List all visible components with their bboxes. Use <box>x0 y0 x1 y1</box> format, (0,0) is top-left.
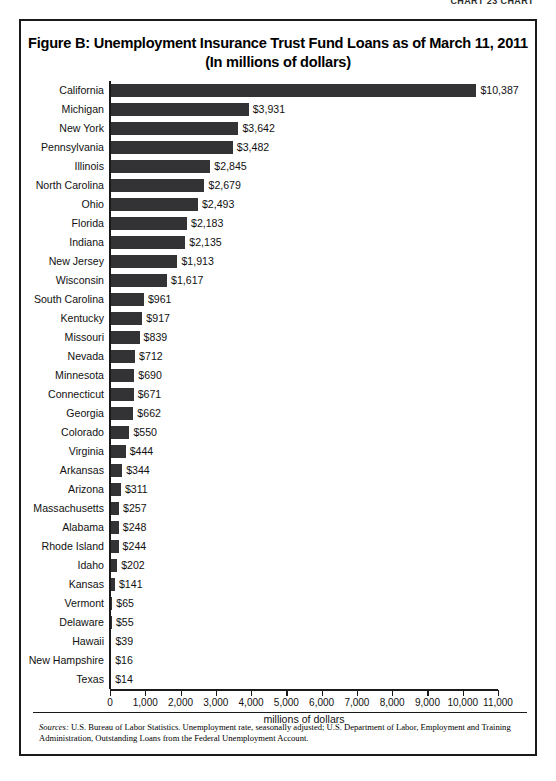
chart-row: Arizona$311 <box>21 480 539 499</box>
x-axis-tick-label: 2,000 <box>168 697 193 708</box>
chart-row: Delaware$55 <box>21 613 539 632</box>
figure-title: Figure B: Unemployment Insurance Trust F… <box>21 34 535 72</box>
category-label: Florida <box>21 214 104 233</box>
category-label: Kentucky <box>21 309 104 328</box>
chart-row: Pennsylvania$3,482 <box>21 138 539 157</box>
bar <box>110 540 119 553</box>
bar <box>110 236 185 249</box>
bar-value-label: $712 <box>139 347 163 366</box>
x-axis-tick-label: 9,000 <box>415 697 440 708</box>
x-axis-tick <box>322 690 323 696</box>
x-axis-tick-label: 5,000 <box>274 697 299 708</box>
bar-value-label: $1,617 <box>171 271 203 290</box>
bar-value-label: $917 <box>146 309 170 328</box>
chart-row: Minnesota$690 <box>21 366 539 385</box>
sources-label: Sources: <box>39 722 69 732</box>
chart-row: Texas$14 <box>21 670 539 689</box>
figure-title-line-1: Figure B: Unemployment Insurance Trust F… <box>28 35 528 51</box>
bar <box>110 198 198 211</box>
bar <box>110 521 119 534</box>
chart-row: Kentucky$917 <box>21 309 539 328</box>
bar-value-label: $344 <box>126 461 150 480</box>
chart-row: Virginia$444 <box>21 442 539 461</box>
x-axis-tick <box>286 690 287 696</box>
bar <box>110 559 117 572</box>
x-axis-tick-label: 3,000 <box>203 697 228 708</box>
bar-value-label: $39 <box>115 632 133 651</box>
bar <box>110 293 144 306</box>
chart-row: California$10,387 <box>21 81 539 100</box>
bar <box>110 483 121 496</box>
chart-row: Wisconsin$1,617 <box>21 271 539 290</box>
category-label: Colorado <box>21 423 104 442</box>
bar <box>110 464 122 477</box>
sources-text: U.S. Bureau of Labor Statistics. Unemplo… <box>39 722 511 743</box>
bar-value-label: $444 <box>130 442 154 461</box>
bar <box>110 388 134 401</box>
x-axis-tick-label: 4,000 <box>239 697 264 708</box>
bar-value-label: $65 <box>116 594 134 613</box>
category-label: Ohio <box>21 195 104 214</box>
bar-value-label: $3,642 <box>242 119 274 138</box>
bar-value-label: $14 <box>115 670 133 689</box>
sources-note: Sources: U.S. Bureau of Labor Statistics… <box>39 722 521 744</box>
x-axis-tick-label: 6,000 <box>309 697 334 708</box>
category-label: Michigan <box>21 100 104 119</box>
x-axis-tick <box>145 690 146 696</box>
x-axis-tick <box>463 690 464 696</box>
bar-value-label: $311 <box>125 480 148 499</box>
category-label: Arizona <box>21 480 104 499</box>
bar-value-label: $2,135 <box>189 233 221 252</box>
category-label: Georgia <box>21 404 104 423</box>
bar <box>110 350 135 363</box>
category-label: Delaware <box>21 613 104 632</box>
chart-row: North Carolina$2,679 <box>21 176 539 195</box>
category-label: Idaho <box>21 556 104 575</box>
category-label: Texas <box>21 670 104 689</box>
category-label: Alabama <box>21 518 104 537</box>
chart-row: Ohio$2,493 <box>21 195 539 214</box>
chart-row: Nevada$712 <box>21 347 539 366</box>
bar <box>110 312 142 325</box>
chart-row: Missouri$839 <box>21 328 539 347</box>
bar-value-label: $3,482 <box>237 138 269 157</box>
category-label: Massachusetts <box>21 499 104 518</box>
bar-value-label: $55 <box>116 613 134 632</box>
category-label: Wisconsin <box>21 271 104 290</box>
bar-value-label: $10,387 <box>480 81 518 100</box>
x-axis-tick <box>392 690 393 696</box>
bar <box>110 445 126 458</box>
bar-value-label: $141 <box>119 575 143 594</box>
bar <box>110 122 238 135</box>
bar-value-label: $202 <box>121 556 145 575</box>
bar <box>110 160 210 173</box>
bar <box>110 217 187 230</box>
bar-value-label: $662 <box>137 404 161 423</box>
chart-row: Florida$2,183 <box>21 214 539 233</box>
category-label: Illinois <box>21 157 104 176</box>
bar <box>110 255 177 268</box>
category-label: New York <box>21 119 104 138</box>
chart-row: Massachusetts$257 <box>21 499 539 518</box>
bar <box>110 331 140 344</box>
bar <box>110 103 249 116</box>
figure-title-line-2: (In millions of dollars) <box>21 53 535 72</box>
bar-value-label: $2,679 <box>208 176 240 195</box>
category-label: Connecticut <box>21 385 104 404</box>
bar-value-label: $690 <box>138 366 162 385</box>
bar-value-label: $3,931 <box>253 100 285 119</box>
bar <box>110 141 233 154</box>
category-label: Virginia <box>21 442 104 461</box>
chart-row: New Hampshire$16 <box>21 651 539 670</box>
chart-row: New York$3,642 <box>21 119 539 138</box>
chart-row: Illinois$2,845 <box>21 157 539 176</box>
bar <box>110 578 115 591</box>
y-axis-line <box>109 81 111 689</box>
chart-row: New Jersey$1,913 <box>21 252 539 271</box>
x-axis-tick <box>498 690 499 696</box>
bar <box>110 369 134 382</box>
x-axis-tick-label: 0 <box>107 697 113 708</box>
category-label: Minnesota <box>21 366 104 385</box>
x-axis-tick <box>216 690 217 696</box>
bar-value-label: $961 <box>148 290 172 309</box>
